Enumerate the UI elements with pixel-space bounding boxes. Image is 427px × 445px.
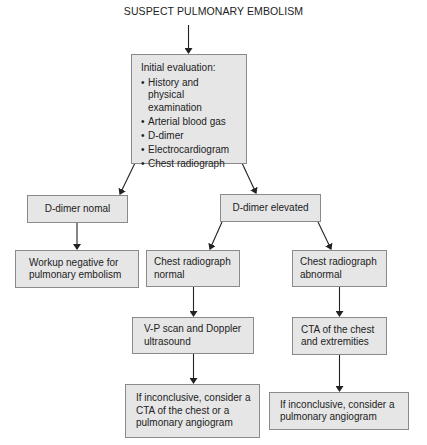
initial-evaluation-box: Initial evaluation: History and physical… <box>131 54 247 164</box>
cxr-normal-box: Chest radiograph normal <box>146 250 240 287</box>
workup-negative-box: Workup negative for pulmonary embolism <box>15 250 139 288</box>
cta-chest-line1: CTA of the chest <box>301 324 374 337</box>
inconclusive-right-box: If inconclusive, consider a pulmonary an… <box>269 392 409 430</box>
inconclusive-left-line3: pulmonary angiogram <box>136 417 251 430</box>
initial-evaluation-heading: Initial evaluation: <box>141 62 240 75</box>
vp-scan-line1: V-P scan and Doppler <box>144 323 241 336</box>
inconclusive-right-line2: pulmonary angiogram <box>280 411 395 424</box>
ddimer-elevated-box: D-dimer elevated <box>220 194 321 222</box>
cta-chest-box: CTA of the chest and extremities <box>292 317 387 355</box>
inconclusive-left-line1: If inconclusive, consider a <box>136 392 251 405</box>
vp-scan-box: V-P scan and Doppler ultrasound <box>132 317 254 354</box>
ddimer-elevated-label: D-dimer elevated <box>232 202 308 215</box>
cxr-normal-line1: Chest radiograph <box>154 256 231 269</box>
workup-negative-line2: pulmonary embolism <box>29 269 121 282</box>
inconclusive-left-line2: CTA of the chest or a <box>136 405 251 418</box>
cxr-normal-line2: normal <box>154 269 231 282</box>
list-item: D-dimer <box>141 130 240 143</box>
cta-chest-line2: and extremities <box>301 336 374 349</box>
workup-negative-line1: Workup negative for <box>29 257 121 270</box>
cxr-abnormal-box: Chest radiograph abnormal <box>292 250 387 287</box>
cxr-abnormal-line1: Chest radiograph <box>300 256 377 269</box>
list-item: History and physical examination <box>141 77 240 115</box>
inconclusive-right-line1: If inconclusive, consider a <box>280 399 395 412</box>
ddimer-normal-box: D-dimer nomal <box>27 195 128 223</box>
list-item: Electrocardiogram <box>141 144 240 157</box>
inconclusive-left-box: If inconclusive, consider a CTA of the c… <box>125 384 260 438</box>
list-item: Chest radiograph <box>141 158 240 171</box>
ddimer-normal-label: D-dimer nomal <box>45 203 111 216</box>
cxr-abnormal-line2: abnormal <box>300 269 377 282</box>
vp-scan-line2: ultrasound <box>144 336 241 349</box>
list-item: Arterial blood gas <box>141 116 240 129</box>
initial-evaluation-list: History and physical examination Arteria… <box>141 77 240 171</box>
